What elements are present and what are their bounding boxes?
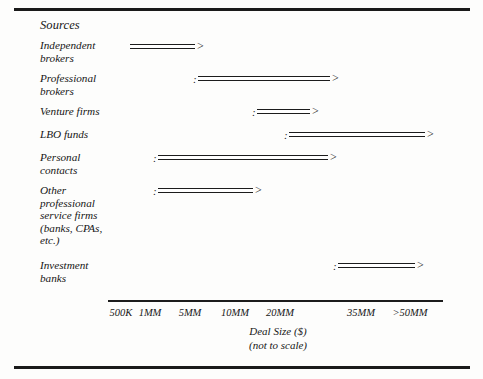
axis-tick-label: 5MM [179, 306, 202, 319]
bar-line [289, 132, 425, 137]
bottom-rule [14, 366, 470, 369]
row-label: Independent brokers [40, 39, 118, 64]
figure-page: Sources Independent brokers>Professional… [0, 0, 483, 379]
bar-arrowhead: > [330, 151, 337, 163]
axis-tick-label: 500K [110, 306, 133, 319]
bar-line [257, 109, 310, 114]
axis-tick-label: 1MM [139, 306, 162, 319]
top-rule [14, 8, 470, 11]
bar-arrowhead: > [197, 40, 204, 52]
range-bar: :> [252, 107, 326, 117]
axis-tick-label: 10MM [221, 306, 249, 319]
range-bar: :> [333, 261, 431, 271]
bar-arrowhead: > [312, 105, 319, 117]
bar-line [158, 155, 328, 160]
bar-arrowhead: > [417, 259, 424, 271]
row-label: Venture firms [40, 105, 118, 118]
axis-line [108, 300, 443, 302]
axis-tick-label: 35MM [347, 306, 375, 319]
bar-start-marker: : [153, 153, 157, 163]
bar-arrowhead: > [427, 128, 434, 140]
axis-tick-label: 20MM [266, 306, 294, 319]
bar-line [198, 76, 330, 81]
bar-start-marker: : [284, 130, 288, 140]
row-label: Personal contacts [40, 151, 118, 176]
range-bar: :> [153, 153, 344, 163]
bar-start-marker: : [252, 107, 256, 117]
axis-tick-label: >50MM [392, 306, 427, 319]
row-label: LBO funds [40, 128, 118, 141]
bar-arrowhead: > [332, 72, 339, 84]
axis-caption-line1: Deal Size ($) [218, 325, 338, 339]
row-label: Other professional service firms (banks,… [40, 184, 118, 247]
bar-start-marker: : [153, 186, 157, 196]
range-bar: :> [153, 186, 269, 196]
axis-caption-line2: (not to scale) [218, 339, 338, 353]
range-bar: > [130, 42, 211, 52]
range-bar: :> [284, 130, 441, 140]
bar-arrowhead: > [255, 184, 262, 196]
range-bar: :> [193, 74, 346, 84]
bar-line [338, 263, 415, 268]
bar-start-marker: : [333, 261, 337, 271]
column-header-sources: Sources [40, 18, 80, 33]
bar-start-marker: : [193, 74, 197, 84]
bar-line [130, 44, 195, 49]
bar-line [158, 188, 253, 193]
row-label: Investment banks [40, 259, 118, 284]
row-label: Professional brokers [40, 72, 118, 97]
axis-caption: Deal Size ($) (not to scale) [218, 325, 338, 352]
